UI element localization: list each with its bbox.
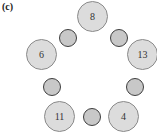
large-node-4: 4 — [108, 101, 139, 132]
large-node-13: 13 — [127, 39, 157, 70]
small-node — [83, 108, 101, 126]
node-value: 4 — [121, 111, 126, 122]
panel-label: (c) — [2, 1, 13, 12]
small-node — [59, 29, 77, 47]
node-value: 13 — [138, 49, 148, 60]
large-node-6: 6 — [26, 39, 57, 70]
small-node — [43, 78, 61, 96]
node-value: 6 — [39, 49, 44, 60]
node-value: 8 — [90, 11, 95, 22]
small-node — [110, 29, 128, 47]
large-node-8: 8 — [77, 1, 108, 32]
large-node-11: 11 — [44, 101, 75, 132]
node-value: 11 — [55, 111, 65, 122]
small-node — [126, 78, 144, 96]
